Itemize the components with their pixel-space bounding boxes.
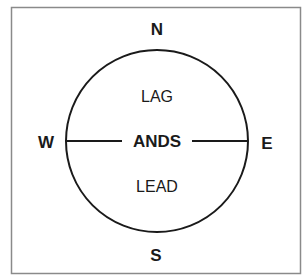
lead-region-label: LEAD: [136, 178, 178, 195]
compass-diagram: N S W E LAG LEAD ANDS: [0, 0, 306, 279]
north-label: N: [151, 20, 163, 39]
lag-region-label: LAG: [141, 88, 173, 105]
ands-center-label: ANDS: [133, 132, 181, 151]
east-label: E: [261, 134, 272, 153]
south-label: S: [150, 246, 161, 265]
west-label: W: [38, 133, 55, 152]
